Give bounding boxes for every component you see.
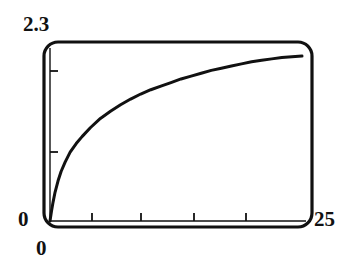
x-axis-min-label: 0 — [36, 238, 47, 259]
plot-area — [0, 0, 342, 266]
y-axis-min-label: 0 — [18, 209, 29, 230]
figure-canvas: 2.3 0 0 25 — [0, 0, 342, 266]
y-axis-max-label: 2.3 — [23, 14, 49, 35]
data-curve — [50, 56, 302, 221]
x-axis-max-label: 25 — [314, 209, 335, 230]
